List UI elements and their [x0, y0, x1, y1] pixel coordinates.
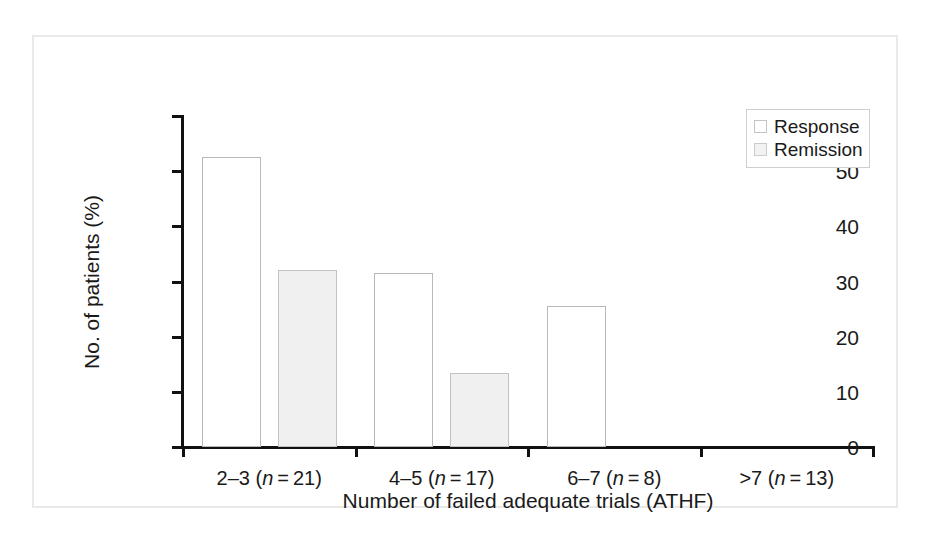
y-axis-tick [172, 170, 181, 173]
y-axis-tick [172, 391, 181, 394]
bar-remission-2 [450, 373, 509, 447]
bar-response-2 [374, 273, 433, 447]
legend-label: Remission [774, 140, 863, 159]
x-axis-category-label: 6–7 (n = 8) [567, 468, 661, 488]
x-axis-tick [182, 447, 185, 457]
bar-remission-1 [278, 270, 337, 447]
y-axis-tick [172, 225, 181, 228]
category-n-symbol: n [613, 467, 624, 489]
legend-swatch-response-icon [754, 120, 767, 133]
category-range: >7 ( [739, 467, 774, 489]
y-axis-tick-label: 0 [847, 437, 859, 458]
category-n-symbol: n [435, 467, 446, 489]
bar-response-1 [202, 157, 261, 447]
y-axis-tick [172, 281, 181, 284]
y-axis-tick [172, 336, 181, 339]
category-n-value: = 8) [624, 467, 661, 489]
x-axis-category-label: 2–3 (n = 21) [217, 468, 322, 488]
x-axis-category-label: 4–5 (n = 17) [389, 468, 494, 488]
x-axis-tick [872, 447, 875, 457]
x-axis-tick [527, 447, 530, 457]
category-n-value: = 21) [273, 467, 322, 489]
y-axis-tick-label: 30 [836, 271, 859, 292]
legend-item-response[interactable]: Response [754, 115, 861, 138]
legend-item-remission[interactable]: Remission [754, 138, 861, 161]
category-range: 2–3 ( [217, 467, 263, 489]
legend-swatch-remission-icon [754, 143, 767, 156]
category-n-value: = 13) [786, 467, 835, 489]
x-axis-tick [355, 447, 358, 457]
y-axis-title: No. of patients (%) [80, 195, 104, 369]
y-axis-tick-label: 10 [836, 381, 859, 402]
category-n-symbol: n [262, 467, 273, 489]
legend-label: Response [774, 117, 860, 136]
category-range: 4–5 ( [389, 467, 435, 489]
y-axis-tick-label: 20 [836, 326, 859, 347]
chart-legend: ResponseRemission [746, 109, 870, 168]
x-axis-tick [700, 447, 703, 457]
figure-frame: 0102030405060 2–3 (n = 21)4–5 (n = 17)6–… [32, 35, 898, 508]
category-range: 6–7 ( [567, 467, 613, 489]
category-n-value: = 17) [446, 467, 495, 489]
y-axis-tick [172, 446, 181, 449]
x-axis-title: Number of failed adequate trials (ATHF) [343, 489, 714, 513]
category-n-symbol: n [774, 467, 785, 489]
y-axis-tick [172, 115, 181, 118]
bar-response-3 [547, 306, 606, 447]
y-axis-tick-label: 40 [836, 216, 859, 237]
x-axis-category-label: >7 (n = 13) [739, 468, 834, 488]
